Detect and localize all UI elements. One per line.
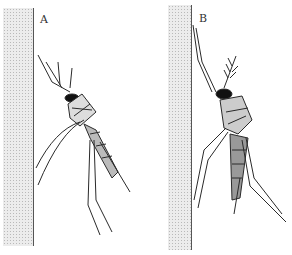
mosquito-a-drawing	[0, 0, 146, 255]
panel-a: A	[0, 0, 146, 255]
panel-b: B	[146, 0, 292, 255]
mosquito-b-drawing	[146, 0, 292, 255]
